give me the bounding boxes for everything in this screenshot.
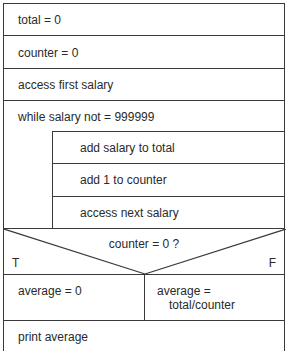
flowchart-frame: total = 0 counter = 0 access first salar… bbox=[3, 3, 285, 351]
step-print-average: print average bbox=[4, 321, 284, 351]
branch-label-line2: total/counter bbox=[169, 298, 235, 312]
loop-step-add-counter: add 1 to counter bbox=[53, 164, 284, 197]
loop-condition: while salary not = 999999 bbox=[18, 110, 154, 124]
branch-label-line1: average = bbox=[157, 284, 211, 298]
loop-step-access-next: access next salary bbox=[53, 197, 284, 228]
true-branch: average = 0 bbox=[4, 275, 145, 320]
step-label: access next salary bbox=[80, 206, 179, 220]
step-label: total = 0 bbox=[18, 13, 61, 27]
step-label: add 1 to counter bbox=[80, 173, 167, 187]
loop-block: while salary not = 999999 add salary to … bbox=[4, 101, 284, 229]
decision-condition: counter = 0 ? bbox=[4, 237, 284, 251]
step-init-counter: counter = 0 bbox=[4, 36, 284, 69]
branch-label: average = 0 bbox=[18, 284, 82, 298]
loop-step-add-salary: add salary to total bbox=[53, 131, 284, 164]
true-label: T bbox=[12, 256, 19, 270]
loop-body: add salary to total add 1 to counter acc… bbox=[52, 131, 284, 228]
false-branch: average = total/counter bbox=[145, 275, 284, 320]
step-label: add salary to total bbox=[80, 141, 175, 155]
step-init-total: total = 0 bbox=[4, 4, 284, 36]
decision-triangle-lines bbox=[4, 229, 286, 275]
step-label: print average bbox=[18, 330, 88, 344]
step-access-first: access first salary bbox=[4, 69, 284, 101]
step-label: counter = 0 bbox=[18, 46, 78, 60]
decision-branches: average = 0 average = total/counter bbox=[4, 275, 284, 321]
step-label: access first salary bbox=[18, 78, 113, 92]
false-label: F bbox=[269, 256, 276, 270]
decision-block: counter = 0 ? T F bbox=[4, 229, 284, 275]
